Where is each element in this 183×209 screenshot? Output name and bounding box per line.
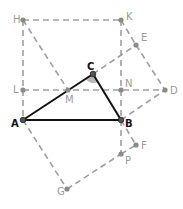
point-a	[20, 117, 26, 123]
point-e	[133, 42, 138, 47]
label-b: B	[125, 118, 133, 129]
point-f	[133, 142, 138, 147]
point-h	[20, 17, 25, 22]
segment-ag	[23, 120, 67, 189]
geometry-diagram: HKECLMNDABFPG	[0, 0, 183, 209]
points	[20, 17, 167, 191]
segment-gp	[67, 154, 121, 189]
segment-ed	[136, 45, 165, 90]
point-g	[64, 186, 69, 191]
point-l	[20, 87, 25, 92]
segment-ke	[121, 20, 136, 45]
label-k: K	[126, 11, 133, 22]
label-l: L	[13, 84, 19, 95]
point-b	[118, 117, 124, 123]
point-m	[65, 87, 70, 92]
point-p	[118, 151, 123, 156]
label-e: E	[141, 32, 147, 43]
side-bc	[93, 74, 121, 120]
point-c	[90, 71, 96, 77]
side-ca	[23, 74, 93, 120]
label-f: F	[141, 140, 147, 151]
segment-hm	[23, 20, 68, 90]
label-g: G	[57, 186, 65, 197]
label-p: P	[125, 155, 131, 166]
point-k	[118, 17, 123, 22]
label-m: M	[65, 94, 74, 105]
segment-bd	[121, 90, 165, 120]
point-d	[162, 87, 167, 92]
construction-lines	[23, 20, 165, 189]
label-n: N	[125, 78, 132, 89]
label-c: C	[87, 61, 94, 72]
label-a: A	[11, 118, 19, 129]
segment-ce	[93, 45, 136, 74]
label-h: H	[13, 14, 21, 25]
segment-pf	[121, 145, 136, 154]
point-n	[118, 87, 123, 92]
label-d: D	[170, 85, 178, 96]
